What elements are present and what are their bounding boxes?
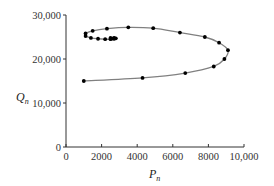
data-point	[223, 57, 227, 61]
data-point	[91, 29, 95, 33]
x-tick-label: 8000	[198, 151, 219, 162]
data-point	[226, 48, 230, 52]
x-axis-label: Pn	[148, 167, 160, 183]
y-tick-label: 0	[56, 142, 61, 153]
phase-plot: 0200040006000800010,000010,00020,00030,0…	[0, 0, 274, 186]
x-tick-label: 6000	[162, 151, 183, 162]
y-tick-label: 30,000	[32, 10, 61, 21]
data-point	[212, 65, 216, 69]
y-tick-label: 10,000	[32, 98, 61, 109]
x-tick-label: 10,000	[230, 151, 259, 162]
data-point	[112, 36, 116, 40]
data-point	[151, 26, 155, 30]
data-point	[103, 37, 107, 41]
x-tick-label: 0	[63, 151, 68, 162]
x-tick-label: 2000	[91, 151, 112, 162]
x-tick-label: 4000	[127, 151, 148, 162]
data-point	[217, 41, 221, 45]
data-point	[89, 36, 93, 40]
data-point	[126, 25, 130, 29]
data-point	[96, 37, 100, 41]
data-points	[82, 25, 230, 82]
axes: 0200040006000800010,000010,00020,00030,0…	[32, 10, 258, 162]
data-point	[178, 31, 182, 35]
trajectory-curve	[84, 27, 228, 81]
data-point	[141, 76, 145, 80]
data-point	[203, 35, 207, 39]
data-point	[183, 71, 187, 75]
data-point	[105, 27, 109, 31]
data-point	[84, 34, 88, 38]
y-axis-label: Qn	[16, 90, 29, 106]
data-point	[82, 79, 86, 83]
y-tick-label: 20,000	[32, 54, 61, 65]
